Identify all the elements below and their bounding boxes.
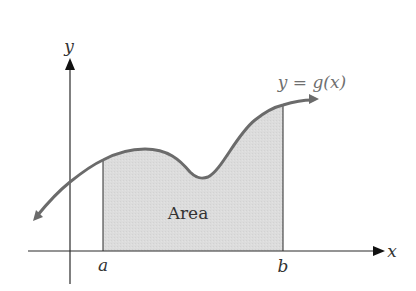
lower-bound-label-a: a bbox=[98, 255, 108, 275]
curve-label: y = g(x) bbox=[277, 72, 346, 92]
x-axis-arrow-icon bbox=[373, 246, 385, 256]
x-axis-label: x bbox=[387, 241, 397, 261]
y-axis-label: y bbox=[63, 36, 74, 56]
y-axis-arrow-icon bbox=[65, 58, 75, 70]
shaded-area-region bbox=[103, 105, 283, 251]
upper-bound-label-b: b bbox=[278, 256, 289, 276]
area-label: Area bbox=[167, 203, 209, 223]
area-under-curve-diagram: y x a b y = g(x) Area bbox=[0, 0, 416, 291]
curve-right-arrow-icon bbox=[309, 94, 319, 104]
